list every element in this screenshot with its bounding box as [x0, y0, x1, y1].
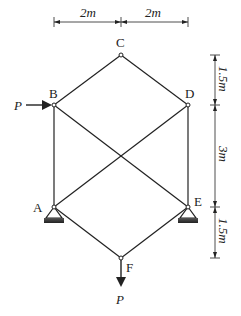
joint-B — [52, 103, 56, 107]
joint-F — [119, 256, 123, 260]
dim-2m-left: 2m — [80, 5, 96, 20]
joint-C — [119, 53, 123, 57]
load-vertical-F: P — [115, 260, 126, 307]
label-B: B — [49, 86, 58, 101]
member-CB — [54, 55, 121, 105]
joint-D — [186, 103, 190, 107]
label-C: C — [116, 35, 125, 50]
joint-A — [52, 205, 56, 209]
arrow-right-icon — [42, 100, 52, 110]
label-A: A — [33, 200, 43, 215]
member-CD — [121, 55, 188, 105]
load-label-P-horizontal: P — [13, 98, 22, 113]
joint-E — [186, 205, 190, 209]
label-F: F — [126, 260, 133, 275]
dim-1.5m-top: 1.5m — [216, 66, 231, 92]
dim-3m: 3m — [216, 145, 231, 162]
truss-diagram: 2m 2m 1.5m 3m 1.5m — [0, 0, 241, 316]
load-horizontal-B: P — [13, 98, 52, 113]
member-EF — [121, 207, 188, 258]
dim-1.5m-bottom: 1.5m — [216, 218, 231, 244]
label-D: D — [185, 86, 194, 101]
arrow-down-icon — [116, 277, 126, 287]
vertical-dimension: 1.5m 3m 1.5m — [210, 55, 231, 258]
horizontal-dimension: 2m 2m — [54, 5, 188, 27]
dim-2m-right: 2m — [145, 5, 161, 20]
load-label-P-vertical: P — [115, 292, 124, 307]
label-E: E — [194, 194, 202, 209]
truss-members — [54, 55, 188, 258]
member-AF — [54, 207, 121, 258]
